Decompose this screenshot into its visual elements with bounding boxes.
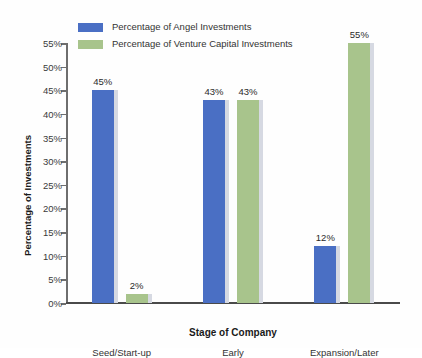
bar-slot: 12% xyxy=(314,43,340,303)
bar-slot: 55% xyxy=(348,43,374,303)
y-tick-label: 45% xyxy=(43,85,62,96)
bar[interactable]: 2% xyxy=(126,294,148,303)
bar[interactable]: 55% xyxy=(348,43,370,303)
y-tick-label: 15% xyxy=(43,227,62,238)
bar-shadow xyxy=(225,100,229,303)
bar[interactable]: 43% xyxy=(203,100,225,303)
y-axis-title: Percentage of Investments xyxy=(22,116,33,276)
bar-value-label: 45% xyxy=(93,76,112,87)
bar-slot: 43% xyxy=(237,43,263,303)
bar-slot: 43% xyxy=(203,43,229,303)
y-tick-label: 55% xyxy=(43,38,62,49)
y-tick-label: 20% xyxy=(43,203,62,214)
x-tick-label: Early xyxy=(222,347,244,358)
x-axis-title: Stage of Company xyxy=(66,327,400,338)
y-tick-label: 35% xyxy=(43,132,62,143)
y-tick-label: 40% xyxy=(43,108,62,119)
bar-shadow xyxy=(259,100,263,303)
legend-swatch-angel xyxy=(78,23,103,32)
y-tick-label: 10% xyxy=(43,250,62,261)
bar-group: 45%2% xyxy=(92,43,152,303)
bar[interactable]: 43% xyxy=(237,100,259,303)
bar-shadow xyxy=(114,90,118,303)
x-tick-label: Seed/Start-up xyxy=(92,347,151,358)
bar-shadow xyxy=(370,43,374,303)
y-tick-label: 5% xyxy=(48,274,62,285)
x-tick-label: Expansion/Later xyxy=(310,347,379,358)
bar[interactable]: 45% xyxy=(92,90,114,303)
bar-value-label: 55% xyxy=(350,29,369,40)
bar-shadow xyxy=(148,294,152,303)
legend-label-angel: Percentage of Angel Investments xyxy=(112,21,251,33)
plot-area: 0%5%10%15%20%25%30%35%40%45%50%55%45%2%S… xyxy=(66,43,400,303)
y-tick-label: 25% xyxy=(43,179,62,190)
bar-shadow xyxy=(336,246,340,303)
bar-group: 43%43% xyxy=(203,43,263,303)
y-tick-label: 0% xyxy=(48,298,62,309)
bar-slot: 45% xyxy=(92,43,118,303)
bar[interactable]: 12% xyxy=(314,246,336,303)
bar-value-label: 2% xyxy=(130,280,144,291)
y-tick-label: 30% xyxy=(43,156,62,167)
y-tick-label: 50% xyxy=(43,61,62,72)
bar-value-label: 12% xyxy=(316,232,335,243)
bar-value-label: 43% xyxy=(204,86,223,97)
legend-item-angel: Percentage of Angel Investments xyxy=(78,21,293,33)
bar-slot: 2% xyxy=(126,43,152,303)
bar-group: 12%55% xyxy=(314,43,374,303)
bar-value-label: 43% xyxy=(238,86,257,97)
